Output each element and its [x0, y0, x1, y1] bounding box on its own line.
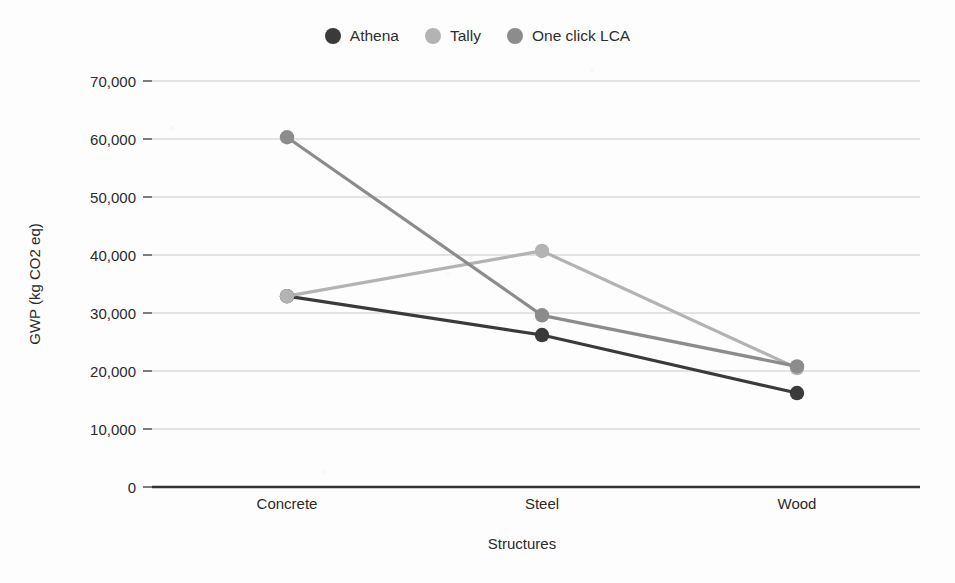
x-tick-labels: ConcreteSteelWood	[257, 495, 817, 512]
series-markers	[280, 130, 804, 400]
y-tick-label: 30,000	[90, 305, 136, 322]
line-chart: Athena Tally One click LCA 70,00060,0005…	[0, 0, 955, 583]
x-tick-label: Wood	[778, 495, 817, 512]
data-point-athena-wood[interactable]	[790, 386, 804, 400]
data-point-tally-steel[interactable]	[535, 244, 549, 258]
series-lines	[287, 137, 797, 393]
data-point-one-click-lca-concrete[interactable]	[280, 130, 294, 144]
x-tick-label: Concrete	[257, 495, 318, 512]
data-point-tally-concrete[interactable]	[280, 289, 294, 303]
y-tick-label: 40,000	[90, 247, 136, 264]
y-axis-title: GWP (kg CO2 eq)	[26, 223, 43, 344]
x-axis-title: Structures	[488, 535, 556, 552]
y-tick-labels: 70,00060,00050,00040,00030,00020,00010,0…	[90, 73, 136, 496]
y-tick-label: 50,000	[90, 189, 136, 206]
y-tick-marks	[143, 81, 152, 487]
plot-area: 70,00060,00050,00040,00030,00020,00010,0…	[0, 0, 955, 583]
data-point-one-click-lca-wood[interactable]	[790, 359, 804, 373]
y-tick-label: 0	[128, 479, 136, 496]
data-point-one-click-lca-steel[interactable]	[535, 308, 549, 322]
gridlines	[152, 81, 920, 487]
y-tick-label: 20,000	[90, 363, 136, 380]
data-point-athena-steel[interactable]	[535, 328, 549, 342]
y-tick-label: 60,000	[90, 131, 136, 148]
x-tick-label: Steel	[525, 495, 559, 512]
y-tick-label: 10,000	[90, 421, 136, 438]
y-tick-label: 70,000	[90, 73, 136, 90]
